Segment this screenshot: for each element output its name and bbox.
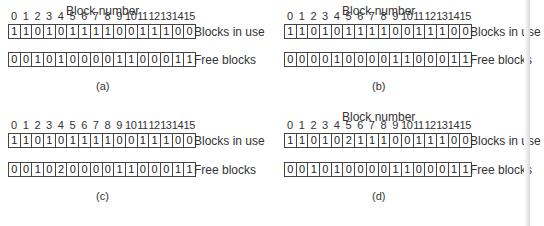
free-cell: 1 bbox=[402, 53, 414, 66]
panel-d: Block number 0123456789101112131415 1101… bbox=[284, 113, 544, 226]
block-index: 5 bbox=[342, 119, 354, 131]
free-cell: 0 bbox=[149, 163, 161, 176]
free-cell: 0 bbox=[367, 53, 379, 66]
free-cell: 0 bbox=[149, 53, 161, 66]
free-cell: 2 bbox=[56, 163, 68, 176]
free-blocks-row: 0010100001100011 bbox=[284, 162, 472, 177]
free-cell: 0 bbox=[355, 53, 367, 66]
free-cell: 0 bbox=[91, 163, 103, 176]
free-cell: 1 bbox=[460, 53, 471, 66]
block-index: 15 bbox=[459, 10, 471, 22]
free-cell: 0 bbox=[103, 163, 115, 176]
block-index: 15 bbox=[183, 10, 195, 22]
block-index: 10 bbox=[125, 119, 137, 131]
block-index: 15 bbox=[459, 119, 471, 131]
in-use-cell: 0 bbox=[402, 25, 414, 38]
in-use-cell: 1 bbox=[285, 134, 297, 147]
block-index: 7 bbox=[366, 10, 378, 22]
free-cell: 1 bbox=[114, 53, 126, 66]
block-index: 12 bbox=[424, 10, 436, 22]
in-use-cell: 1 bbox=[44, 134, 56, 147]
block-index: 1 bbox=[296, 10, 308, 22]
in-use-cell: 1 bbox=[297, 134, 309, 147]
free-cell: 0 bbox=[414, 53, 426, 66]
in-use-cell: 0 bbox=[126, 25, 138, 38]
in-use-cell: 0 bbox=[402, 134, 414, 147]
in-use-cell: 1 bbox=[21, 25, 33, 38]
blocks-in-use-row: 1101011110011100 bbox=[8, 24, 196, 39]
free-cell: 0 bbox=[320, 53, 332, 66]
free-cell: 0 bbox=[138, 163, 150, 176]
blocks-in-use-label: Blocks in use bbox=[194, 25, 265, 39]
in-use-cell: 1 bbox=[103, 25, 115, 38]
in-use-cell: 0 bbox=[32, 134, 44, 147]
block-index: 1 bbox=[20, 10, 32, 22]
block-index: 11 bbox=[413, 119, 425, 131]
block-index: 13 bbox=[436, 10, 448, 22]
block-index: 9 bbox=[389, 119, 401, 131]
in-use-cell: 0 bbox=[56, 25, 68, 38]
free-cell: 1 bbox=[402, 163, 414, 176]
in-use-cell: 1 bbox=[91, 134, 103, 147]
free-cell: 0 bbox=[414, 163, 426, 176]
in-use-cell: 0 bbox=[173, 25, 185, 38]
in-use-cell: 1 bbox=[285, 25, 297, 38]
block-index: 12 bbox=[148, 119, 160, 131]
block-number-indices: 0123456789101112131415 bbox=[8, 119, 195, 131]
in-use-cell: 0 bbox=[449, 134, 461, 147]
block-index: 6 bbox=[78, 10, 90, 22]
free-cell: 1 bbox=[332, 53, 344, 66]
block-index: 12 bbox=[148, 10, 160, 22]
free-cell: 0 bbox=[379, 53, 391, 66]
free-cell: 0 bbox=[437, 163, 449, 176]
free-cell: 0 bbox=[44, 163, 56, 176]
in-use-cell: 1 bbox=[379, 25, 391, 38]
in-use-cell: 1 bbox=[161, 134, 173, 147]
in-use-cell: 1 bbox=[297, 25, 309, 38]
free-cell: 1 bbox=[173, 53, 185, 66]
free-cell: 0 bbox=[9, 163, 21, 176]
block-index: 2 bbox=[31, 119, 43, 131]
blocks-in-use-label: Blocks in use bbox=[194, 134, 265, 148]
free-cell: 0 bbox=[285, 53, 297, 66]
block-index: 6 bbox=[78, 119, 90, 131]
in-use-cell: 1 bbox=[79, 134, 91, 147]
free-cell: 1 bbox=[460, 163, 471, 176]
in-use-cell: 1 bbox=[437, 25, 449, 38]
free-cell: 1 bbox=[32, 163, 44, 176]
panel-caption: (c) bbox=[96, 190, 109, 202]
in-use-cell: 0 bbox=[114, 134, 126, 147]
free-cell: 0 bbox=[161, 163, 173, 176]
blocks-in-use-label: Blocks in use bbox=[470, 25, 541, 39]
in-use-cell: 0 bbox=[332, 25, 344, 38]
in-use-cell: 1 bbox=[21, 134, 33, 147]
block-index: 6 bbox=[354, 10, 366, 22]
blocks-in-use-row: 1101021110011100 bbox=[284, 133, 472, 148]
free-cell: 1 bbox=[173, 163, 185, 176]
panel-caption: (d) bbox=[372, 190, 385, 202]
block-index: 6 bbox=[354, 119, 366, 131]
in-use-cell: 1 bbox=[367, 134, 379, 147]
free-cell: 0 bbox=[297, 53, 309, 66]
in-use-cell: 1 bbox=[379, 134, 391, 147]
block-index: 3 bbox=[319, 119, 331, 131]
free-blocks-label: Free blocks bbox=[194, 53, 256, 67]
in-use-cell: 1 bbox=[355, 25, 367, 38]
block-number-indices: 0123456789101112131415 bbox=[284, 10, 471, 22]
free-cell: 0 bbox=[67, 163, 79, 176]
free-blocks-label: Free blocks bbox=[470, 53, 532, 67]
panel-b: Block number 0123456789101112131415 1101… bbox=[284, 0, 544, 113]
block-index: 10 bbox=[401, 119, 413, 131]
in-use-cell: 0 bbox=[460, 25, 471, 38]
in-use-cell: 0 bbox=[390, 134, 402, 147]
free-cell: 0 bbox=[79, 53, 91, 66]
in-use-cell: 1 bbox=[343, 25, 355, 38]
in-use-cell: 2 bbox=[343, 134, 355, 147]
block-index: 0 bbox=[284, 119, 296, 131]
free-cell: 1 bbox=[449, 163, 461, 176]
free-cell: 0 bbox=[285, 163, 297, 176]
block-index: 4 bbox=[331, 10, 343, 22]
in-use-cell: 0 bbox=[114, 25, 126, 38]
in-use-cell: 0 bbox=[460, 134, 471, 147]
free-cell: 0 bbox=[138, 53, 150, 66]
